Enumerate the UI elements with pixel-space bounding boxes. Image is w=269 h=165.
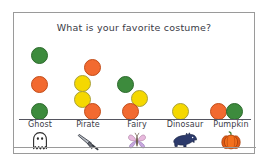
dot-ghost-1 (31, 47, 48, 64)
dot-fairy-1 (117, 76, 134, 93)
dot-pumpkin-2 (226, 103, 243, 120)
dot-ghost-3 (31, 103, 48, 120)
category-label-strip: Ghost Pirate Fairy (14, 120, 256, 154)
sword-icon (76, 131, 100, 151)
category-label-pumpkin: Pumpkin (205, 120, 257, 130)
category-dinosaur[interactable]: Dinosaur (159, 120, 211, 149)
dot-pirate-4 (84, 103, 101, 120)
category-label-pirate: Pirate (62, 120, 114, 130)
butterfly-icon (127, 131, 147, 151)
dot-fairy-3 (122, 103, 139, 120)
category-label-ghost: Ghost (14, 120, 66, 130)
dot-dinosaur-1 (172, 103, 189, 120)
dot-pumpkin-1 (210, 103, 227, 120)
category-label-dinosaur: Dinosaur (159, 120, 211, 130)
ghost-icon (31, 131, 49, 151)
chart-frame: What is your favorite costume? (13, 12, 255, 154)
dot-pirate-2 (74, 75, 91, 92)
category-pumpkin[interactable]: Pumpkin (205, 120, 257, 150)
dot-ghost-2 (31, 76, 48, 93)
label-strip-divider (14, 147, 256, 148)
category-label-fairy: Fairy (111, 120, 163, 130)
screenshot-root: What is your favorite costume? (0, 0, 269, 165)
dot-pirate-1 (84, 59, 101, 76)
